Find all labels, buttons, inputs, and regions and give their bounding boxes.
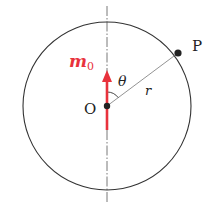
point-p <box>174 49 181 56</box>
angle-arc <box>107 92 118 98</box>
label-p: P <box>192 37 202 55</box>
label-o: O <box>84 100 96 118</box>
label-m0: m <box>69 51 87 71</box>
label-r: r <box>145 83 152 98</box>
vector-m0 <box>102 70 112 130</box>
label-m0-subscript: 0 <box>87 60 94 73</box>
diagram-canvas: O P r θ m 0 <box>0 0 220 205</box>
label-theta: θ <box>118 73 127 89</box>
point-o <box>104 103 110 109</box>
